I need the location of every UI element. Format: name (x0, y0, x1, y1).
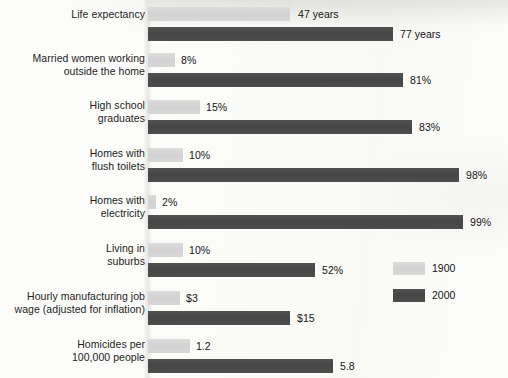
category-label: Homicides per100,000 people (0, 338, 145, 363)
category-label-line: flush toilets (0, 160, 145, 173)
comparison-bar-chart: Life expectancy47 years77 yearsMarried w… (0, 0, 508, 378)
bar-2000 (148, 359, 333, 373)
bar-1900 (148, 195, 156, 209)
bar-value-label: $3 (186, 291, 198, 305)
bar-value-label: 1.2 (196, 339, 211, 353)
bar-1900 (148, 291, 180, 305)
bar-1900 (148, 148, 183, 162)
legend-swatch-1900 (393, 262, 425, 275)
category-label: Life expectancy (0, 8, 145, 21)
bar-value-label: 52% (322, 263, 343, 277)
bar-1900 (148, 7, 290, 21)
category-label-line: Married women working (0, 52, 145, 65)
category-label-line: Life expectancy (0, 8, 145, 21)
bar-value-label: 47 years (298, 7, 339, 21)
category-label: Homes withflush toilets (0, 147, 145, 172)
category-label-line: Hourly manufacturing job (0, 290, 145, 303)
category-label-line: outside the home (0, 65, 145, 78)
bar-value-label: 10% (189, 148, 210, 162)
legend-swatch-2000 (393, 289, 425, 302)
bar-value-label: 8% (181, 53, 196, 67)
category-label-line: High school (0, 99, 145, 112)
bar-1900 (148, 53, 175, 67)
bar-value-label: $15 (297, 311, 315, 325)
category-label: Hourly manufacturing jobwage (adjusted f… (0, 290, 145, 315)
bar-value-label: 2% (162, 195, 177, 209)
legend-label: 1900 (432, 262, 455, 275)
bar-value-label: 83% (419, 120, 440, 134)
bar-value-label: 5.8 (340, 359, 355, 373)
bar-2000 (148, 27, 393, 41)
bar-1900 (148, 243, 183, 257)
category-label-line: Homes with (0, 147, 145, 160)
bar-value-label: 98% (466, 168, 487, 182)
category-label-line: Homes with (0, 194, 145, 207)
bar-2000 (148, 168, 459, 182)
bar-2000 (148, 215, 463, 229)
bar-1900 (148, 339, 190, 353)
bar-2000 (148, 311, 290, 325)
category-label: High schoolgraduates (0, 99, 145, 124)
bar-1900 (148, 100, 200, 114)
category-label-line: 100,000 people (0, 351, 145, 364)
bar-value-label: 81% (410, 73, 431, 87)
bar-value-label: 77 years (400, 27, 441, 41)
bar-2000 (148, 120, 412, 134)
category-label-line: graduates (0, 112, 145, 125)
category-label: Homes withelectricity (0, 194, 145, 219)
bar-2000 (148, 263, 315, 277)
category-label-line: Homicides per (0, 338, 145, 351)
bar-value-label: 10% (189, 243, 210, 257)
category-label-line: electricity (0, 207, 145, 220)
category-label: Living insuburbs (0, 242, 145, 267)
category-label: Married women workingoutside the home (0, 52, 145, 77)
bar-value-label: 99% (470, 215, 491, 229)
bar-2000 (148, 73, 403, 87)
legend-label: 2000 (432, 289, 455, 302)
bar-value-label: 15% (206, 100, 227, 114)
category-label-line: Living in (0, 242, 145, 255)
category-label-line: suburbs (0, 255, 145, 268)
category-label-line: wage (adjusted for inflation) (0, 303, 145, 316)
